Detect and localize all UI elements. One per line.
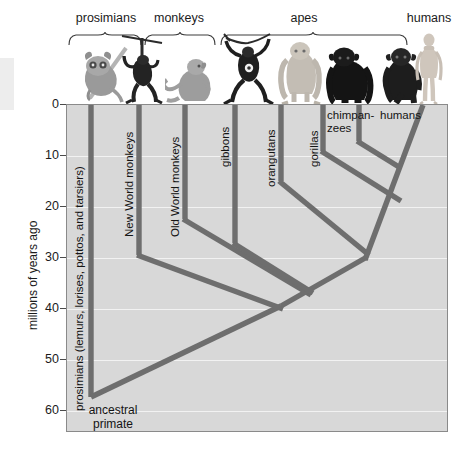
- branch-label-gibbons: gibbons: [219, 127, 231, 167]
- gibbon-silhouette: [220, 30, 276, 104]
- branch-label-new-world-monkeys: New World monkeys: [123, 132, 135, 237]
- y-tick-label-60: 60: [33, 403, 59, 417]
- branch-label-chimpanzees-line2: zees: [327, 122, 351, 134]
- y-tick-label-10: 10: [33, 148, 59, 162]
- branch-label-chimpanzees: chimpan- zees: [327, 109, 374, 134]
- group-label-monkeys: monkeys: [140, 11, 218, 25]
- root-node-label: ancestral primate: [71, 404, 155, 431]
- branch-label-gorillas: gorillas: [308, 131, 320, 167]
- gorilla-silhouette: [325, 46, 377, 104]
- human-silhouette: [412, 32, 446, 104]
- branch-label-humans: humans: [380, 109, 421, 122]
- root-label-line1: ancestral: [89, 403, 138, 417]
- branch-label-chimpanzees-line1: chimpan-: [327, 109, 374, 121]
- orangutan-silhouette: [278, 40, 324, 104]
- y-tick-label-0: 0: [33, 97, 59, 111]
- spider-monkey-silhouette: [118, 30, 166, 104]
- y-tick-label-20: 20: [33, 199, 59, 213]
- old-world-monkey-silhouette: [165, 54, 223, 104]
- branch-label-old-world-monkeys: Old World monkeys: [169, 137, 181, 237]
- group-label-apes: apes: [274, 11, 334, 25]
- group-label-humans: humans: [394, 11, 464, 25]
- branch-label-prosimians: prosimians (lemurs, lorises, pottos, and…: [73, 166, 85, 411]
- y-tick-label-50: 50: [33, 352, 59, 366]
- animal-illustration-row: [0, 30, 469, 104]
- phylogeny-plot-area: prosimians (lemurs, lorises, pottos, and…: [66, 104, 448, 432]
- group-label-prosimians: prosimians: [64, 11, 148, 25]
- root-label-line2: primate: [93, 417, 133, 431]
- branch-label-orangutans: orangutans: [265, 129, 277, 187]
- y-tick-label-40: 40: [33, 301, 59, 315]
- y-tick-label-30: 30: [33, 250, 59, 264]
